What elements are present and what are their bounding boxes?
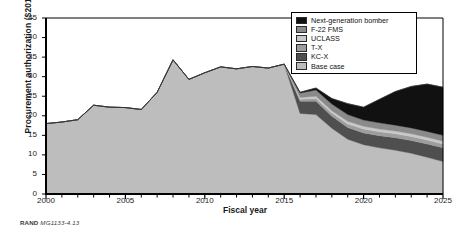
y-tick-label: 15 xyxy=(15,130,37,139)
legend-label: KC-X xyxy=(311,52,328,61)
credit-id: MG1133-4.13 xyxy=(40,219,79,226)
legend-item: UCLASS xyxy=(296,34,412,43)
legend-item: Base case xyxy=(296,61,412,70)
x-tick-label: 2025 xyxy=(423,196,453,205)
legend-label: F-22 FMS xyxy=(311,25,343,34)
chart-figure: Procurement authorization ($2011B) Fisca… xyxy=(0,0,453,241)
legend-item: F-22 FMS xyxy=(296,25,412,34)
legend-label: Next-generation bomber xyxy=(311,16,389,25)
x-tick-label: 2015 xyxy=(264,196,304,205)
y-tick-label: 35 xyxy=(15,52,37,61)
x-tick-label: 2005 xyxy=(105,196,145,205)
x-tick-label: 2010 xyxy=(185,196,225,205)
chart-legend: Next-generation bomberF-22 FMSUCLASST-XK… xyxy=(291,12,417,74)
y-tick-label: 40 xyxy=(15,32,37,41)
legend-item: KC-X xyxy=(296,52,412,61)
legend-swatch xyxy=(296,17,307,25)
legend-item: Next-generation bomber xyxy=(296,16,412,25)
x-tick-label: 2020 xyxy=(344,196,384,205)
legend-swatch xyxy=(296,35,307,43)
y-tick-label: 20 xyxy=(15,110,37,119)
y-tick-label: 25 xyxy=(15,91,37,100)
legend-swatch xyxy=(296,26,307,34)
figure-credit: RAND MG1133-4.13 xyxy=(20,219,79,226)
legend-swatch xyxy=(296,62,307,70)
legend-swatch xyxy=(296,53,307,61)
credit-prefix: RAND xyxy=(20,219,38,226)
legend-label: Base case xyxy=(311,62,345,71)
x-axis-title: Fiscal year xyxy=(40,205,450,215)
y-tick-label: 30 xyxy=(15,71,37,80)
legend-item: T-X xyxy=(296,43,412,52)
y-tick-label: 5 xyxy=(15,169,37,178)
y-tick-label: 10 xyxy=(15,149,37,158)
x-tick-label: 2000 xyxy=(26,196,66,205)
y-tick-label: 45 xyxy=(15,13,37,22)
legend-label: UCLASS xyxy=(311,34,340,43)
legend-label: T-X xyxy=(311,43,322,52)
legend-swatch xyxy=(296,44,307,52)
